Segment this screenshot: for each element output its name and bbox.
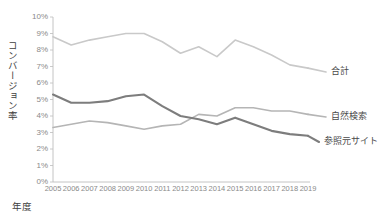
x-axis-tick-label: 2008 <box>99 185 116 193</box>
series-label-0: 合計 <box>331 66 349 76</box>
x-axis-tick-label: 2017 <box>263 185 280 193</box>
x-axis-tick-label: 2019 <box>300 185 317 193</box>
x-axis-tick-label: 2007 <box>81 185 98 193</box>
x-axis-tick-label: 2018 <box>281 185 298 193</box>
x-axis-tick-label: 2005 <box>45 185 62 193</box>
series-label-2: 参照元サイト <box>324 136 378 146</box>
x-axis-tick-label: 2015 <box>227 185 244 193</box>
series-label-1: 自然検索 <box>331 111 367 121</box>
x-axis-tick-label: 2006 <box>63 185 80 193</box>
x-axis-tick-label: 2012 <box>172 185 189 193</box>
x-axis-tick-label: 2009 <box>118 185 135 193</box>
conversion-rate-line-chart: コンバージョン率 0%1%2%3%4%5%6%7%8%9%10% 2005200… <box>0 0 382 220</box>
x-axis-tick-label: 2014 <box>209 185 226 193</box>
x-axis-tick-label: 2011 <box>154 185 170 193</box>
x-axis-tick-label: 2013 <box>190 185 207 193</box>
x-axis-title: 年度 <box>12 199 32 213</box>
x-axis-tick-label: 2016 <box>245 185 262 193</box>
x-axis-tick-label: 2010 <box>136 185 153 193</box>
x-axis-tick-labels: 2005200620072008200920102011201220132014… <box>0 0 382 220</box>
